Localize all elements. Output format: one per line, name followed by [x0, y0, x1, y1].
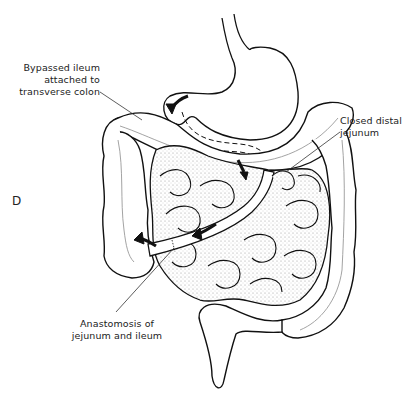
jejunoileal-bypass-diagram: D Bypassed ileum attached to transverse …: [0, 0, 411, 393]
panel-letter: D: [12, 194, 21, 208]
esophagus: [222, 14, 250, 58]
label-line: Closed distal: [340, 115, 410, 127]
label-line: jejunum: [340, 127, 410, 139]
label-line: transverse colon: [14, 86, 100, 98]
leader-bypassed-ileum: [100, 92, 142, 120]
label-line: Bypassed ileum: [14, 62, 100, 74]
label-anastomosis: Anastomosis of jejunum and ileum: [62, 318, 172, 342]
label-line: Anastomosis of: [62, 318, 172, 330]
sigmoid-rectum: [199, 304, 282, 388]
label-bypassed-ileum: Bypassed ileum attached to transverse co…: [14, 62, 100, 98]
stomach: [164, 47, 298, 140]
label-line: attached to: [14, 74, 100, 86]
label-closed-distal-jejunum: Closed distal jejunum: [340, 115, 410, 139]
label-line: jejunum and ileum: [62, 330, 172, 342]
